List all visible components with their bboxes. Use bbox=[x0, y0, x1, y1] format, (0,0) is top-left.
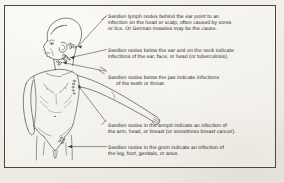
callout-groin: Swollen nodes in the groin indicate an i… bbox=[108, 145, 278, 158]
iliac-crest-right bbox=[60, 128, 70, 137]
rib-right-1 bbox=[64, 95, 71, 103]
armpit-nodes bbox=[72, 80, 76, 94]
callout-behind-ear: Swollen lymph nodes behind the ear point… bbox=[108, 14, 278, 33]
groin-right bbox=[55, 137, 65, 151]
rib-right-2 bbox=[64, 101, 71, 108]
thigh-right-inner bbox=[66, 142, 67, 155]
left-hand-edge bbox=[32, 129, 34, 135]
hip-right bbox=[65, 125, 73, 137]
leader-line-armpit bbox=[78, 85, 105, 121]
below-ear-and-neck-nodes bbox=[62, 54, 71, 62]
genitals-right bbox=[56, 150, 57, 157]
eyebrow bbox=[49, 40, 55, 41]
left-hand bbox=[28, 129, 32, 135]
callout-below-ear-neck: Swollen nodes below the ear and on the n… bbox=[108, 48, 278, 61]
head-cranium bbox=[47, 18, 81, 47]
thigh-left-inner bbox=[43, 142, 44, 155]
ear-inner bbox=[62, 45, 65, 50]
leader-line-below-jaw bbox=[63, 63, 106, 72]
ear-outline bbox=[59, 42, 67, 52]
below-jaw-nodes bbox=[56, 61, 61, 65]
left-forearm-outer bbox=[25, 120, 28, 129]
abdomen-contour bbox=[48, 110, 61, 113]
chest-left-contour bbox=[44, 84, 54, 93]
face-profile bbox=[43, 41, 49, 58]
arrowhead-groin bbox=[68, 145, 72, 148]
callout-below-jaw: Swollen nodes below the jaw indicate inf… bbox=[108, 69, 278, 94]
arrowhead-below-ear bbox=[70, 56, 74, 59]
right-shoulder bbox=[55, 69, 77, 75]
hip-left bbox=[34, 126, 44, 137]
groin-left bbox=[44, 137, 55, 151]
neck-front bbox=[54, 59, 56, 69]
genitals-left bbox=[53, 150, 55, 157]
cheek-line bbox=[50, 49, 53, 56]
thigh-left-outer bbox=[36, 136, 37, 160]
chest-right-contour bbox=[59, 83, 68, 92]
nipple-right bbox=[65, 87, 66, 88]
genitals-base bbox=[55, 158, 56, 159]
torso-right-side bbox=[73, 87, 80, 125]
eye-pupil bbox=[51, 43, 52, 44]
callout-armpit: Swollen nodes in the armpit indicate an … bbox=[108, 123, 278, 136]
navel bbox=[55, 116, 56, 117]
left-arm-outer bbox=[23, 84, 26, 120]
left-shoulder bbox=[26, 70, 55, 84]
lymph-node-diagram-page: Swollen lymph nodes behind the ear point… bbox=[0, 0, 284, 183]
callout-below-jaw-line1: Swollen nodes below the jaw indicate inf… bbox=[108, 75, 219, 81]
iliac-crest-left bbox=[38, 128, 51, 136]
arrowhead-below-jaw bbox=[63, 61, 67, 64]
left-arm-inner bbox=[31, 81, 33, 118]
behind-the-ear-nodes bbox=[68, 43, 77, 50]
armpit-fold bbox=[77, 75, 79, 86]
leader-line-behind-ear bbox=[78, 16, 106, 46]
hairline-detail bbox=[53, 26, 63, 31]
nipple-left bbox=[46, 88, 47, 89]
collarbone-left bbox=[46, 73, 61, 76]
callout-below-jaw-line2: of the teeth or throat. bbox=[108, 81, 278, 87]
torso-left-side bbox=[34, 76, 36, 126]
